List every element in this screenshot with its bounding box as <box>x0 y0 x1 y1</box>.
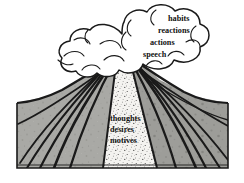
cloud-label-reactions: reactions <box>158 26 190 35</box>
volcano-diagram: habits reactions actions speech thoughts… <box>0 0 244 183</box>
cloud-label-speech: speech <box>143 50 167 59</box>
conduit-label-thoughts: thoughts <box>110 114 141 123</box>
eruption-cloud: habits reactions actions speech <box>58 5 209 77</box>
cloud-label-actions: actions <box>150 38 175 47</box>
cloud-label-habits: habits <box>168 14 189 23</box>
illustration-canvas: habits reactions actions speech thoughts… <box>0 0 244 183</box>
conduit-label-motives: motives <box>110 136 137 145</box>
conduit-label-desires: desires <box>110 125 134 134</box>
